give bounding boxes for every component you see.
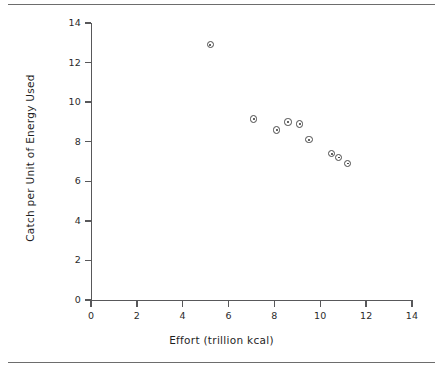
x-tick-mark xyxy=(136,301,137,307)
data-point xyxy=(335,154,342,161)
y-tick-label: 0 xyxy=(57,294,81,305)
y-axis-title: Catch per Unit of Energy Used xyxy=(24,53,36,263)
x-tick-label: 6 xyxy=(217,310,241,321)
x-tick-mark xyxy=(274,301,275,307)
y-tick-label: 6 xyxy=(57,175,81,186)
x-tick-label: 4 xyxy=(171,310,195,321)
data-point xyxy=(305,136,312,143)
y-tick-label: 10 xyxy=(57,96,81,107)
x-tick-mark xyxy=(90,301,91,307)
y-tick-mark xyxy=(85,220,91,221)
data-point xyxy=(207,41,214,48)
y-tick-mark xyxy=(85,101,91,102)
x-tick-label: 2 xyxy=(125,310,149,321)
y-tick-label: 8 xyxy=(57,136,81,147)
y-tick-label: 12 xyxy=(57,57,81,68)
y-axis-line xyxy=(91,23,92,301)
x-tick-mark xyxy=(411,301,412,307)
data-point xyxy=(344,160,351,167)
x-tick-mark xyxy=(228,301,229,307)
y-tick-label: 2 xyxy=(57,254,81,265)
y-tick-mark xyxy=(85,260,91,261)
x-tick-label: 10 xyxy=(308,310,332,321)
x-tick-mark xyxy=(365,301,366,307)
x-tick-label: 14 xyxy=(400,310,424,321)
y-tick-mark xyxy=(85,22,91,23)
scatter-plot-figure: 02468101214 02468101214 Effort (trillion… xyxy=(0,0,443,373)
y-tick-mark xyxy=(85,141,91,142)
y-tick-label: 4 xyxy=(57,215,81,226)
data-point xyxy=(250,115,257,122)
y-tick-mark xyxy=(85,181,91,182)
x-axis-title: Effort (trillion kcal) xyxy=(0,334,443,346)
x-tick-mark xyxy=(320,301,321,307)
y-tick-label: 14 xyxy=(57,17,81,28)
x-tick-label: 8 xyxy=(262,310,286,321)
data-point xyxy=(284,118,291,125)
x-tick-mark xyxy=(182,301,183,307)
data-point xyxy=(296,120,303,127)
data-point xyxy=(273,126,280,133)
y-tick-mark xyxy=(85,62,91,63)
x-tick-label: 0 xyxy=(79,310,103,321)
x-tick-label: 12 xyxy=(354,310,378,321)
